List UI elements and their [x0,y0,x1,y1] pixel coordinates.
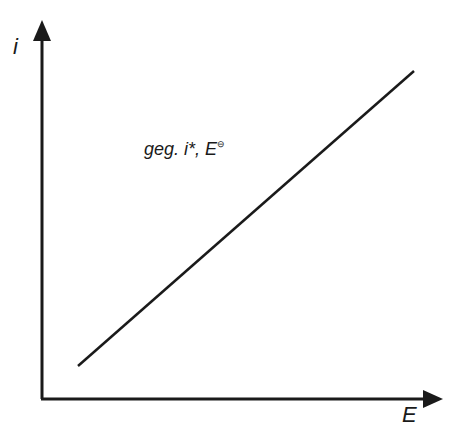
x-axis-arrow-icon [423,390,443,408]
x-axis-label: E [402,402,417,428]
y-axis-label: i [13,34,18,60]
linear-relation-line [78,71,414,366]
standard-state-superscript: ⊖ [217,139,225,149]
annotation-text: geg. i*, E [144,139,217,159]
annotation: geg. i*, E⊖ [144,139,225,160]
y-axis-arrow-icon [33,20,51,41]
diagram-canvas [0,0,460,446]
